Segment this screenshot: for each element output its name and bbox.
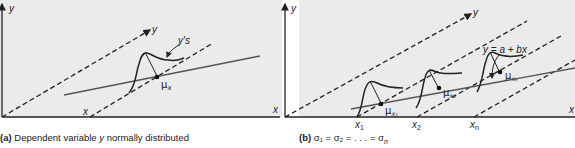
panel-a: y x y x μx y's: [0, 0, 282, 117]
dashed-line-xn: [474, 60, 575, 117]
panel-b: y x y μx₁ μx₂ μxₙ y = a + bx: [299, 0, 575, 117]
caption-b-tag: (b): [299, 132, 311, 143]
caption-a-text: Dependent variable: [14, 132, 99, 143]
regression-line: [351, 68, 575, 109]
caption-b-formula: σ₁ = σ₂ = . . . = σ: [314, 132, 384, 143]
x-axis-label: x: [272, 104, 279, 115]
distribution-pointer: [167, 44, 180, 57]
mean-point-1: [379, 102, 384, 107]
mean-label-1: μx₁: [385, 105, 398, 118]
mean-label-2: μx₂: [443, 87, 456, 100]
x-tick-2: x2: [411, 119, 421, 131]
y-axis-label: y: [290, 3, 297, 14]
caption-a-rest: normally distributed: [104, 132, 189, 143]
dashed-y-direction: [285, 14, 471, 117]
regression-label: y = a + bx: [482, 44, 528, 55]
mean-point: [155, 75, 160, 80]
caption-a: (a) Dependent variable y normally distri…: [0, 132, 189, 143]
y-axis-label: y: [8, 3, 15, 14]
mean-label: μx: [161, 79, 172, 92]
diagram-b: y x y μx₁ μx₂ μxₙ y = a + bx: [299, 0, 575, 117]
x-tick-1: x1: [354, 119, 364, 131]
dashed-y-label: y: [472, 7, 479, 18]
x-axis-label: x: [568, 104, 575, 115]
caption-a-tag: (a): [0, 132, 12, 143]
caption-b-formula-sub: n: [384, 138, 388, 145]
x-tick-n: xn: [469, 119, 479, 131]
mean-point-n: [498, 70, 503, 75]
dashed-x-label: x: [82, 106, 89, 117]
mean-point-2: [437, 86, 442, 91]
diagram-a: y x y x μx y's: [0, 0, 282, 117]
caption-b: (b) σ₁ = σ₂ = . . . = σn: [299, 132, 388, 145]
dashed-y-direction: [2, 30, 150, 117]
dashed-y-label: y: [151, 24, 158, 35]
